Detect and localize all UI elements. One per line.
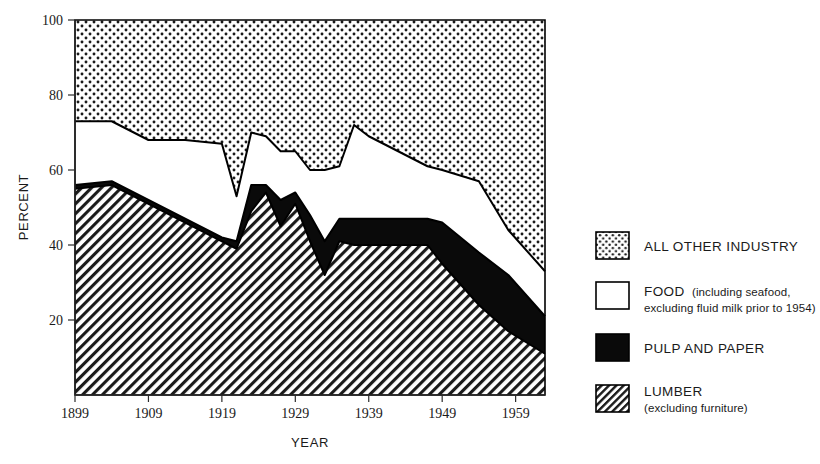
legend-item-all-other-industry[interactable]: ALL OTHER INDUSTRY (596, 232, 798, 259)
x-tick-label: 1909 (134, 406, 162, 421)
legend-item-food[interactable]: FOOD (including seafood, excluding fluid… (596, 282, 816, 314)
legend: ALL OTHER INDUSTRY FOOD (including seafo… (596, 232, 816, 414)
y-tick-label: 80 (49, 88, 63, 103)
y-tick-label: 20 (49, 313, 63, 328)
legend-swatch-white (596, 282, 629, 309)
y-axis-title: PERCENT (16, 174, 31, 240)
legend-swatch-hatch (596, 385, 629, 412)
x-axis-title: YEAR (291, 435, 329, 450)
legend-label-lumber: LUMBER (644, 384, 703, 399)
stacked-area-chart: 20406080100 1899190919191929193919491959… (0, 0, 820, 464)
legend-sublabel-lumber: (excluding furniture) (644, 402, 748, 414)
legend-sublabel-food-line2: excluding fluid milk prior to 1954) (644, 302, 816, 314)
y-tick-group: 20406080100 (42, 13, 75, 328)
legend-sublabel-food-line1: (including seafood, (692, 286, 790, 298)
y-tick-label: 100 (42, 13, 63, 28)
x-tick-group: 1899190919191929193919491959 (61, 395, 530, 421)
x-tick-label: 1949 (428, 406, 456, 421)
x-tick-label: 1939 (355, 406, 383, 421)
area-series-group (75, 20, 545, 395)
legend-label-pulp-and-paper: PULP AND PAPER (644, 341, 765, 356)
legend-item-lumber[interactable]: LUMBER (excluding furniture) (596, 384, 748, 414)
x-tick-label: 1899 (61, 406, 89, 421)
x-tick-label: 1919 (208, 406, 236, 421)
y-tick-label: 60 (49, 163, 63, 178)
legend-label-food: FOOD (644, 284, 685, 299)
x-tick-label: 1929 (281, 406, 309, 421)
legend-item-pulp-and-paper[interactable]: PULP AND PAPER (596, 334, 765, 361)
legend-swatch-dotted (596, 232, 629, 259)
y-tick-label: 40 (49, 238, 63, 253)
legend-swatch-black (596, 334, 629, 361)
x-tick-label: 1959 (502, 406, 530, 421)
legend-label-all-other-industry: ALL OTHER INDUSTRY (644, 239, 798, 254)
